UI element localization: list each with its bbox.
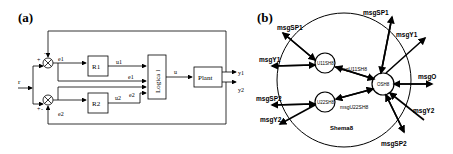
svg-text:OSH8: OSH8 [377,82,390,87]
panel-b-label: (b) [257,10,273,25]
sign-bot-minus: - [41,106,43,112]
input-r-label: r [18,78,21,86]
sign-top-minus: - [44,50,46,56]
panel-a: (a) r + - + - e1 e1 e2 R1 R2 u1 [18,10,244,124]
signal-y1: y1 [238,70,244,76]
msg-sp2-left: msgSP2 [256,95,282,103]
panel-a-label: (a) [18,10,33,25]
schema-label: Shema8 [330,125,354,131]
msg-y2-left: msgY2 [260,116,282,124]
signal-u: u [174,69,177,75]
msg-y1-left: msgY1 [259,56,281,64]
msg-sp1-right: msgSP1 [363,9,389,17]
signal-y2: y2 [238,87,244,93]
figure: (a) r + - + - e1 e1 e2 R1 R2 u1 [0,0,453,154]
msg-sp2-right: msgSP2 [381,140,407,148]
svg-text:U22SH8: U22SH8 [317,100,335,105]
svg-text:Plant: Plant [198,74,212,82]
signal-e1: e1 [58,56,64,62]
edge-label-u22: msgU22SH8 [340,104,369,110]
panel-b: (b) U11SH8 U22SH8 OSH8 msgU11SH8 msgU22S… [256,9,436,148]
signal-e2: e2 [58,111,64,117]
signal-u1: u1 [116,59,122,65]
svg-text:Logica l: Logica l [154,70,162,93]
signal-u2: u2 [115,95,121,101]
svg-text:R2: R2 [92,100,101,108]
signal-e2-b: e2 [129,92,135,98]
msg-o: msgO [418,73,436,81]
svg-text:R1: R1 [92,63,101,71]
sign-top-plus: + [37,57,41,63]
msg-y2-right: msgY2 [413,107,435,115]
msg-y1-right: msgY1 [396,31,418,39]
svg-text:U11SH8: U11SH8 [317,61,334,66]
signal-e1-b: e1 [128,74,134,80]
msg-sp1-left: msgSP1 [277,24,303,32]
